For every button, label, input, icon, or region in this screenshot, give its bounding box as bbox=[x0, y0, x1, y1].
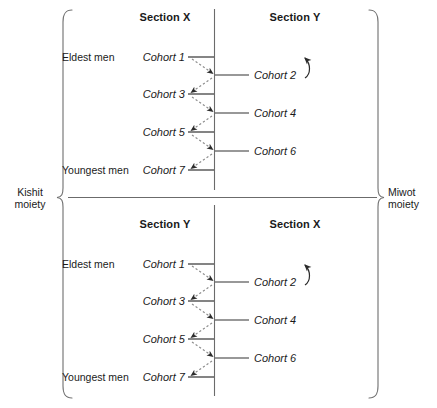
top-left-section-header: Section X bbox=[110, 12, 220, 23]
left-moiety-brace bbox=[57, 10, 72, 398]
left-moiety-label: Kishit moiety bbox=[6, 186, 54, 210]
exchange-arrow-2-to-3-b bbox=[191, 285, 212, 300]
exchange-arrow-3-to-4-b bbox=[192, 304, 213, 319]
exchange-arrow-1-to-2 bbox=[192, 59, 213, 74]
exchange-arrow-3-to-4 bbox=[192, 97, 213, 112]
cycle-curve-arrow-top bbox=[305, 58, 310, 78]
bottom-cohort-1-label: Cohort 1 bbox=[123, 259, 185, 270]
exchange-arrow-5-to-6-b bbox=[192, 342, 213, 357]
bottom-cohort-3-label: Cohort 3 bbox=[123, 296, 185, 307]
exchange-arrow-6-to-7 bbox=[191, 154, 212, 169]
moiety-diagram: Kishit moiety Miwot moiety Section X Sec… bbox=[0, 0, 437, 408]
top-right-section-header: Section Y bbox=[240, 12, 350, 23]
bottom-cohort-7-label: Cohort 7 bbox=[123, 372, 185, 383]
right-moiety-label: Miwot moiety bbox=[388, 186, 436, 210]
top-cohort-2-label: Cohort 2 bbox=[254, 70, 296, 81]
right-moiety-brace bbox=[369, 10, 384, 398]
top-cohort-1-label: Cohort 1 bbox=[123, 52, 185, 63]
bottom-cohort-2-label: Cohort 2 bbox=[254, 277, 296, 288]
bottom-right-section-header: Section X bbox=[240, 219, 350, 230]
top-youngest-men-label: Youngest men bbox=[62, 165, 129, 176]
right-moiety-word: moiety bbox=[388, 198, 436, 210]
top-eldest-men-label: Eldest men bbox=[62, 52, 115, 63]
bottom-cohort-4-label: Cohort 4 bbox=[254, 315, 296, 326]
cycle-curve-arrow-bottom bbox=[305, 265, 310, 285]
exchange-arrow-4-to-5-b bbox=[191, 323, 212, 338]
top-cohort-3-label: Cohort 3 bbox=[123, 89, 185, 100]
bottom-left-section-header: Section Y bbox=[110, 219, 220, 230]
top-cohort-5-label: Cohort 5 bbox=[123, 127, 185, 138]
exchange-arrow-5-to-6 bbox=[192, 135, 213, 150]
top-cohort-4-label: Cohort 4 bbox=[254, 108, 296, 119]
exchange-arrow-6-to-7-b bbox=[191, 361, 212, 376]
exchange-arrow-4-to-5 bbox=[191, 116, 212, 131]
right-moiety-name: Miwot bbox=[388, 186, 436, 198]
bottom-eldest-men-label: Eldest men bbox=[62, 259, 115, 270]
bottom-youngest-men-label: Youngest men bbox=[62, 372, 129, 383]
bottom-cohort-6-label: Cohort 6 bbox=[254, 353, 296, 364]
left-moiety-word: moiety bbox=[6, 198, 54, 210]
exchange-arrow-1-to-2-b bbox=[192, 266, 213, 281]
exchange-arrow-2-to-3 bbox=[191, 78, 212, 93]
left-moiety-name: Kishit bbox=[6, 186, 54, 198]
top-cohort-7-label: Cohort 7 bbox=[123, 165, 185, 176]
top-cohort-6-label: Cohort 6 bbox=[254, 146, 296, 157]
bottom-cohort-5-label: Cohort 5 bbox=[123, 334, 185, 345]
